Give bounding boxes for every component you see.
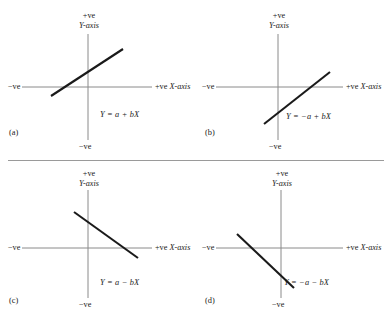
x-axis-name: X-axis xyxy=(169,243,190,252)
y-axis-label: +ve Y-axis xyxy=(261,169,303,190)
panel-d: +ve Y-axis −ve +ve X-axis −ve Y = −a − b… xyxy=(196,168,392,336)
y-axis-name: Y-axis xyxy=(68,179,110,189)
caption-b: (b) xyxy=(205,128,215,137)
equation-b: Y = −a + bX xyxy=(286,112,331,121)
panel-a: +ve Y-axis −ve +ve X-axis −ve Y = a + bX… xyxy=(0,0,196,168)
x-axis-label: +ve X-axis xyxy=(155,243,190,253)
x-axis-name: X-axis xyxy=(360,82,381,91)
x-negative-label: −ve xyxy=(202,243,214,253)
y-negative-label: −ve xyxy=(269,142,281,152)
x-axis-label: +ve X-axis xyxy=(346,243,381,253)
y-axis-name: Y-axis xyxy=(68,21,110,31)
y-positive-label: +ve xyxy=(258,11,300,21)
caption-d: (d) xyxy=(205,296,215,305)
regression-line-figure: +ve Y-axis −ve +ve X-axis −ve Y = a + bX… xyxy=(0,0,392,336)
equation-a: Y = a + bX xyxy=(100,110,139,119)
y-axis-label: +ve Y-axis xyxy=(68,169,110,190)
panel-c: +ve Y-axis −ve +ve X-axis −ve Y = a − bX… xyxy=(0,168,196,336)
equation-d: Y = −a − bX xyxy=(284,278,329,287)
panel-b: +ve Y-axis −ve +ve X-axis −ve Y = −a + b… xyxy=(196,0,392,168)
y-axis-name: Y-axis xyxy=(258,21,300,31)
y-axis-name: Y-axis xyxy=(261,179,303,189)
x-axis-label: +ve X-axis xyxy=(346,82,381,92)
regression-line xyxy=(74,212,138,258)
y-axis-label: +ve Y-axis xyxy=(258,11,300,32)
x-axis-name: X-axis xyxy=(360,243,381,252)
regression-line xyxy=(51,49,123,96)
x-negative-label: −ve xyxy=(8,82,20,92)
x-negative-label: −ve xyxy=(8,243,20,253)
y-negative-label: −ve xyxy=(79,300,91,310)
y-axis-label: +ve Y-axis xyxy=(68,11,110,32)
x-negative-label: −ve xyxy=(202,82,214,92)
equation-c: Y = a − bX xyxy=(100,278,139,287)
section-divider xyxy=(8,160,384,161)
y-negative-label: −ve xyxy=(79,142,91,152)
caption-a: (a) xyxy=(9,128,18,137)
caption-c: (c) xyxy=(9,296,18,305)
y-negative-label: −ve xyxy=(272,300,284,310)
y-positive-label: +ve xyxy=(261,169,303,179)
x-positive-label: +ve xyxy=(155,82,167,91)
x-positive-label: +ve xyxy=(346,82,358,91)
x-positive-label: +ve xyxy=(346,243,358,252)
y-positive-label: +ve xyxy=(68,11,110,21)
x-axis-label: +ve X-axis xyxy=(155,82,190,92)
x-axis-name: X-axis xyxy=(169,82,190,91)
y-positive-label: +ve xyxy=(68,169,110,179)
x-positive-label: +ve xyxy=(155,243,167,252)
